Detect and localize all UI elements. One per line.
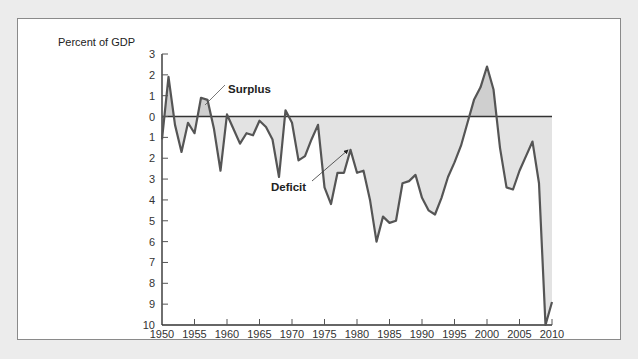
- tick-labels: 3210123456789101950195519601965197019751…: [143, 48, 564, 340]
- x-tick-label: 1975: [312, 328, 336, 340]
- area-fills: [162, 67, 552, 325]
- x-tick-label: 2005: [507, 328, 531, 340]
- y-tick-label: 4: [149, 194, 155, 206]
- surplus-leader-line: [205, 85, 225, 105]
- y-tick-label: 6: [149, 236, 155, 248]
- y-tick-label: 8: [149, 277, 155, 289]
- y-tick-label: 5: [149, 215, 155, 227]
- x-tick-label: 1980: [345, 328, 369, 340]
- surplus-area: [162, 67, 552, 325]
- x-tick-label: 1990: [410, 328, 434, 340]
- y-tick-label: 3: [149, 48, 155, 60]
- deficit-chart: Percent of GDP 3210123456789101950195519…: [0, 0, 638, 359]
- x-tick-label: 1995: [442, 328, 466, 340]
- y-tick-label: 1: [149, 90, 155, 102]
- x-tick-label: 1950: [150, 328, 174, 340]
- y-tick-label: 3: [149, 173, 155, 185]
- y-tick-label: 1: [149, 131, 155, 143]
- x-tick-label: 1960: [215, 328, 239, 340]
- surplus-label: Surplus: [228, 83, 271, 95]
- x-tick-label: 2000: [475, 328, 499, 340]
- y-tick-label: 2: [149, 152, 155, 164]
- x-tick-label: 1970: [280, 328, 304, 340]
- y-tick-label: 9: [149, 298, 155, 310]
- x-tick-label: 1985: [377, 328, 401, 340]
- x-tick-label: 1955: [182, 328, 206, 340]
- x-tick-label: 2010: [540, 328, 564, 340]
- y-tick-label: 7: [149, 256, 155, 268]
- y-tick-label: 2: [149, 69, 155, 81]
- deficit-label: Deficit: [271, 181, 306, 193]
- y-axis-title: Percent of GDP: [58, 36, 135, 48]
- y-tick-label: 0: [149, 111, 155, 123]
- x-tick-label: 1965: [247, 328, 271, 340]
